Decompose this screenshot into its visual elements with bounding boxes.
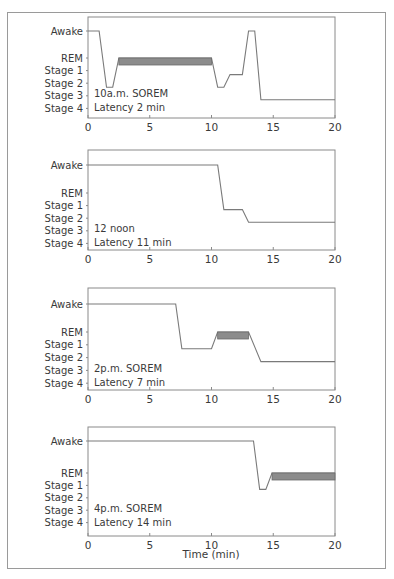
x-tick-label: 0 <box>85 121 92 133</box>
y-tick-label: Awake <box>51 299 83 310</box>
y-tick-label: REM <box>61 188 83 199</box>
x-tick-label: 0 <box>85 393 92 405</box>
plot-area <box>88 288 335 390</box>
y-tick-label: Stage 2 <box>45 352 83 363</box>
y-tick-label: REM <box>61 468 83 479</box>
y-tick-label: Stage 1 <box>45 65 83 76</box>
y-tick-label: Stage 3 <box>45 225 83 236</box>
y-tick-label: Awake <box>51 436 83 447</box>
latency-label: Latency 7 min <box>94 377 165 388</box>
panel-title: 2p.m. SOREM <box>94 363 162 374</box>
x-tick-label: 20 <box>328 121 341 133</box>
panel-title: 10a.m. SOREM <box>94 88 168 99</box>
x-tick-label: 10 <box>205 121 218 133</box>
x-tick-label: 15 <box>267 253 280 265</box>
panel-2: AwakeREMStage 1Stage 2Stage 3Stage 40510… <box>45 150 342 265</box>
x-tick-label: 20 <box>328 253 341 265</box>
panel-3: AwakeREMStage 1Stage 2Stage 3Stage 40510… <box>45 288 342 405</box>
y-tick-label: Stage 1 <box>45 480 83 491</box>
x-tick-label: 20 <box>328 539 341 551</box>
y-tick-label: Stage 4 <box>45 517 83 528</box>
y-tick-label: Awake <box>51 160 83 171</box>
panel-1: AwakeREMStage 1Stage 2Stage 3Stage 40510… <box>45 17 342 133</box>
x-tick-label: 5 <box>146 539 153 551</box>
x-axis-label: Time (min) <box>181 548 239 560</box>
x-tick-label: 0 <box>85 539 92 551</box>
x-tick-label: 5 <box>146 121 153 133</box>
panel-title: 4p.m. SOREM <box>94 503 162 514</box>
y-tick-label: Stage 3 <box>45 505 83 516</box>
x-tick-label: 15 <box>267 539 280 551</box>
y-tick-label: Stage 1 <box>45 339 83 350</box>
y-tick-label: Stage 2 <box>45 213 83 224</box>
hypnogram-trace <box>88 304 335 362</box>
y-tick-label: Stage 4 <box>45 238 83 249</box>
y-tick-label: Stage 3 <box>45 365 83 376</box>
y-tick-label: Awake <box>51 26 83 37</box>
hypnogram-trace <box>88 165 335 222</box>
y-tick-label: Stage 2 <box>45 492 83 503</box>
panel-title: 12 noon <box>94 223 135 234</box>
hypnogram-figure: AwakeREMStage 1Stage 2Stage 3Stage 40510… <box>0 0 394 579</box>
y-tick-label: REM <box>61 53 83 64</box>
latency-label: Latency 11 min <box>94 237 171 248</box>
panel-4: AwakeREMStage 1Stage 2Stage 3Stage 40510… <box>45 427 342 551</box>
y-tick-label: Stage 3 <box>45 90 83 101</box>
x-tick-label: 5 <box>146 393 153 405</box>
x-tick-label: 15 <box>267 121 280 133</box>
rem-period-bar <box>272 473 335 480</box>
latency-label: Latency 14 min <box>94 517 171 528</box>
rem-period-bar <box>119 58 212 65</box>
y-tick-label: REM <box>61 327 83 338</box>
hypnogram-trace <box>88 441 335 489</box>
x-tick-label: 20 <box>328 393 341 405</box>
rem-period-bar <box>218 332 249 339</box>
y-tick-label: Stage 4 <box>45 378 83 389</box>
x-tick-label: 5 <box>146 253 153 265</box>
y-tick-label: Stage 1 <box>45 200 83 211</box>
x-tick-label: 10 <box>205 253 218 265</box>
x-tick-label: 10 <box>205 393 218 405</box>
y-tick-label: Stage 4 <box>45 103 83 114</box>
x-tick-label: 0 <box>85 253 92 265</box>
x-tick-label: 15 <box>267 393 280 405</box>
latency-label: Latency 2 min <box>94 102 165 113</box>
y-tick-label: Stage 2 <box>45 78 83 89</box>
